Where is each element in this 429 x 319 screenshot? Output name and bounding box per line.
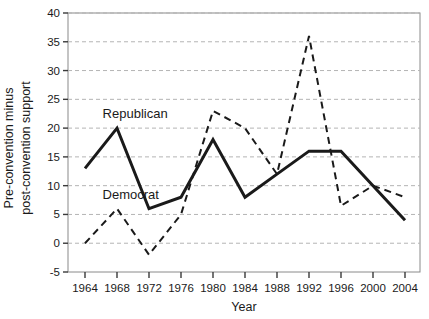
series-annotation-republican: Republican xyxy=(103,106,168,121)
plot-frame xyxy=(68,13,420,272)
y-tick-label: 35 xyxy=(47,36,60,48)
y-tick-label: 15 xyxy=(47,151,60,163)
y-tick-label: 25 xyxy=(47,93,60,105)
x-axis-ticks: 1964196819721976198019841988199219962000… xyxy=(72,272,418,294)
y-axis-title-line1: Pre-convention minus xyxy=(2,88,16,209)
y-tick-label: 10 xyxy=(47,180,60,192)
x-tick-label: 1996 xyxy=(328,282,354,294)
y-axis-title-line2: post-convention support xyxy=(19,81,33,215)
y-axis-ticks: -50510152025303540 xyxy=(47,7,68,278)
x-tick-label: 1972 xyxy=(136,282,162,294)
x-tick-label: 2004 xyxy=(392,282,418,294)
x-tick-label: 1992 xyxy=(296,282,322,294)
y-axis-title: Pre-convention minus post-convention sup… xyxy=(2,81,33,215)
series-line-democrat xyxy=(85,36,405,255)
chart-svg: Pre-convention minus post-convention sup… xyxy=(0,0,429,319)
y-tick-label: 30 xyxy=(47,65,60,77)
x-tick-label: 1980 xyxy=(200,282,226,294)
y-tick-label: 0 xyxy=(54,237,60,249)
x-tick-label: 1976 xyxy=(168,282,194,294)
y-tick-label: 20 xyxy=(47,122,60,134)
y-tick-label: 40 xyxy=(47,7,60,19)
series-layer xyxy=(85,36,405,255)
y-tick-label: 5 xyxy=(54,208,60,220)
series-line-republican xyxy=(85,128,405,220)
x-tick-label: 1988 xyxy=(264,282,290,294)
chart-container: Pre-convention minus post-convention sup… xyxy=(0,0,429,319)
x-tick-label: 2000 xyxy=(360,282,386,294)
x-tick-label: 1964 xyxy=(72,282,98,294)
y-tick-label: -5 xyxy=(50,266,60,278)
series-annotations: RepublicanDemocrat xyxy=(103,106,168,203)
gridlines xyxy=(68,13,420,243)
series-annotation-democrat: Democrat xyxy=(103,187,160,202)
x-tick-label: 1968 xyxy=(104,282,130,294)
x-tick-label: 1984 xyxy=(232,282,258,294)
x-axis-title: Year xyxy=(231,300,256,314)
